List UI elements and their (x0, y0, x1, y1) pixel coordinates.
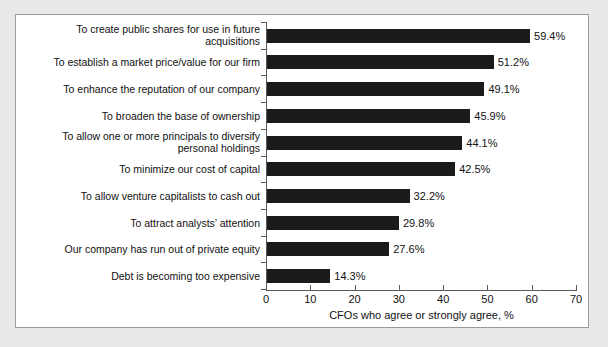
value-tick-label: 30 (379, 293, 419, 305)
bar (267, 216, 399, 230)
bar (267, 136, 462, 150)
bar-value-label: 45.9% (474, 110, 505, 122)
bar (267, 29, 530, 43)
value-axis-line (266, 290, 577, 291)
bar-row: To attract analysts’ attention29.8% (16, 210, 590, 236)
bar-value-label: 44.1% (466, 137, 497, 149)
bar-value-label: 29.8% (403, 217, 434, 229)
category-tick (261, 262, 267, 263)
category-label: To allow one or more principals to diver… (25, 130, 260, 155)
bar-value-label: 42.5% (459, 163, 490, 175)
bar-row: To create public shares for use in futur… (16, 23, 590, 49)
x-axis-title: CFOs who agree or strongly agree, % (266, 309, 577, 321)
bar-row: To broaden the base of ownership45.9% (16, 103, 590, 129)
value-tick-label: 50 (467, 293, 507, 305)
bar-row: To allow venture capitalists to cash out… (16, 183, 590, 209)
value-tick (310, 285, 311, 291)
category-label: Our company has run out of private equit… (25, 243, 260, 256)
bar (267, 242, 389, 256)
bar-value-label: 14.3% (334, 270, 365, 282)
bar (267, 109, 470, 123)
value-tick (399, 285, 400, 291)
bar (267, 55, 494, 69)
category-label: To establish a market price/value for ou… (25, 56, 260, 69)
value-tick-label: 10 (290, 293, 330, 305)
bar-value-label: 32.2% (414, 190, 445, 202)
bar-value-label: 49.1% (488, 83, 519, 95)
value-tick-label: 40 (423, 293, 463, 305)
value-tick (266, 285, 267, 291)
page-root: To create public shares for use in futur… (0, 0, 608, 347)
category-tick (261, 156, 267, 157)
category-tick (261, 236, 267, 237)
category-tick (261, 209, 267, 210)
bar-value-label: 27.6% (393, 243, 424, 255)
bar-row: To establish a market price/value for ou… (16, 50, 590, 76)
category-label: To broaden the base of ownership (25, 110, 260, 123)
bar-row: To allow one or more principals to diver… (16, 130, 590, 156)
value-tick-label: 20 (335, 293, 375, 305)
value-tick (487, 285, 488, 291)
category-label: To allow venture capitalists to cash out (25, 190, 260, 203)
category-label: Debt is becoming too expensive (25, 270, 260, 283)
category-tick (261, 102, 267, 103)
bar-row: Our company has run out of private equit… (16, 237, 590, 263)
category-tick (261, 49, 267, 50)
bar-row: To enhance the reputation of our company… (16, 76, 590, 102)
bar (267, 82, 484, 96)
chart-panel: To create public shares for use in futur… (15, 14, 589, 328)
value-tick (443, 285, 444, 291)
category-label: To create public shares for use in futur… (25, 23, 260, 48)
bar-row: To minimize our cost of capital42.5% (16, 157, 590, 183)
bar-row: Debt is becoming too expensive14.3% (16, 263, 590, 289)
value-tick-label: 70 (556, 293, 596, 305)
category-label: To attract analysts’ attention (25, 216, 260, 229)
bar (267, 162, 455, 176)
category-label: To enhance the reputation of our company (25, 83, 260, 96)
value-tick (355, 285, 356, 291)
bar-value-label: 51.2% (498, 56, 529, 68)
bar-chart-plot-area: To create public shares for use in futur… (16, 15, 590, 329)
category-tick (261, 129, 267, 130)
bar (267, 189, 410, 203)
value-tick (532, 285, 533, 291)
value-tick-label: 0 (246, 293, 286, 305)
category-tick (261, 22, 267, 23)
value-tick-label: 60 (512, 293, 552, 305)
category-label: To minimize our cost of capital (25, 163, 260, 176)
category-tick (261, 182, 267, 183)
value-tick (576, 285, 577, 291)
bar-value-label: 59.4% (534, 30, 565, 42)
bar (267, 269, 330, 283)
category-tick (261, 75, 267, 76)
